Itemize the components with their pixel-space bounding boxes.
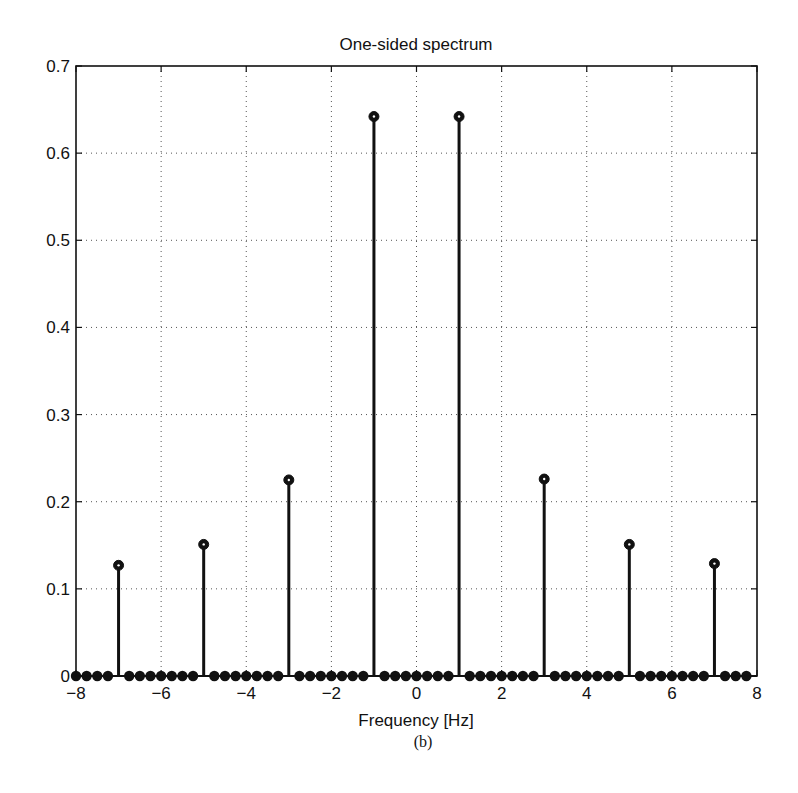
- x-tick-label: −2: [322, 684, 341, 703]
- y-tick-label: 0.5: [46, 231, 70, 250]
- stem-marker-center: [543, 478, 545, 480]
- y-tick-label: 0.2: [46, 493, 70, 512]
- y-tick-label: 0.6: [46, 144, 70, 163]
- y-axis-tick-labels: 00.10.20.30.40.50.60.7: [46, 57, 70, 686]
- x-axis-tick-labels: −8−6−4−202468: [66, 684, 761, 703]
- stem-marker-center: [288, 479, 290, 481]
- x-tick-label: 6: [667, 684, 676, 703]
- stem-marker-center: [628, 543, 630, 545]
- stem-series: [71, 112, 757, 682]
- x-tick-label: 2: [497, 684, 506, 703]
- figure-caption: (b): [414, 733, 433, 751]
- y-tick-label: 0.4: [46, 318, 70, 337]
- stem-marker-center: [117, 564, 119, 566]
- stem-marker-center: [458, 115, 460, 117]
- x-tick-label: −6: [151, 684, 170, 703]
- y-tick-label: 0.7: [46, 57, 70, 76]
- x-tick-label: 4: [582, 684, 591, 703]
- stem-marker-center: [713, 562, 715, 564]
- y-tick-label: 0.1: [46, 580, 70, 599]
- chart-title: One-sided spectrum: [339, 35, 492, 54]
- stem-chart: One-sided spectrum 00.10.20.30.40.50.60.…: [0, 0, 798, 793]
- stem-marker-center: [202, 543, 204, 545]
- x-tick-label: 8: [752, 684, 761, 703]
- x-tick-label: −4: [237, 684, 256, 703]
- x-axis-label: Frequency [Hz]: [358, 711, 473, 730]
- x-tick-label: 0: [412, 684, 421, 703]
- y-tick-label: 0.3: [46, 406, 70, 425]
- x-tick-label: −8: [66, 684, 85, 703]
- grid-lines: [76, 66, 757, 676]
- stem-marker-center: [373, 115, 375, 117]
